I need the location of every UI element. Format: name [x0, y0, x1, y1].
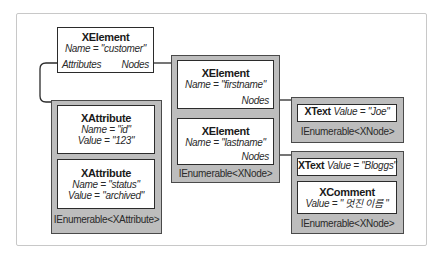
collection-label: IEnumerable<XNode> — [172, 168, 279, 179]
lastname-nodes-collection: XText Value = "Bloggs" XComment Value = … — [291, 151, 404, 234]
attributes-port: Attributes — [62, 59, 101, 70]
node-value-prop: Value = " 멋진 이름 " — [298, 198, 396, 209]
element-node-firstname: XElement Name = "firstname" Nodes — [177, 60, 274, 109]
element-node-lastname: XElement Name = "lastname" Nodes — [177, 118, 274, 165]
node-type: XText — [298, 159, 324, 171]
node-value-prop: Value = "Joe" — [334, 106, 390, 117]
node-type: XAttribute — [58, 167, 154, 179]
attributes-collection: XAttribute Name = "id" Value = "123" XAt… — [51, 100, 162, 234]
node-value-prop: Value = "123" — [58, 135, 154, 146]
attribute-node: XAttribute Name = "status" Value = "arch… — [57, 159, 155, 209]
node-value-prop: Value = "archived" — [58, 190, 154, 201]
node-name-prop: Name = "firstname" — [178, 79, 273, 90]
firstname-nodes-collection: XText Value = "Joe" IEnumerable<XNode> — [291, 97, 404, 143]
node-type: XComment — [298, 186, 396, 198]
node-type: XAttribute — [58, 112, 154, 124]
collection-label: IEnumerable<XNode> — [292, 126, 403, 137]
attribute-node: XAttribute Name = "id" Value = "123" — [57, 105, 155, 154]
collection-label: IEnumerable<XAttribute> — [52, 214, 161, 225]
node-name-prop: Name = "lastname" — [178, 137, 273, 148]
text-node: XText Value = "Bloggs" — [297, 158, 397, 176]
node-type: XText — [304, 105, 330, 117]
node-name-prop: Name = "id" — [58, 124, 154, 135]
node-type: XElement — [178, 125, 273, 137]
collection-label: IEnumerable<XNode> — [292, 218, 403, 229]
nodes-port: Nodes — [242, 95, 269, 106]
nodes-collection: XElement Name = "firstname" Nodes XEleme… — [171, 55, 280, 183]
text-node: XText Value = "Joe" — [297, 104, 397, 122]
nodes-port: Nodes — [122, 59, 149, 70]
node-type: XElement — [58, 31, 153, 43]
node-value-prop: Value = "Bloggs" — [327, 160, 396, 171]
comment-node: XComment Value = " 멋진 이름 " — [297, 181, 397, 214]
root-element-node: XElement Name = "customer" Attributes No… — [57, 27, 154, 73]
node-name-prop: Name = "status" — [58, 179, 154, 190]
nodes-port: Nodes — [242, 151, 269, 162]
node-name-prop: Name = "customer" — [58, 43, 153, 54]
node-type: XElement — [178, 67, 273, 79]
